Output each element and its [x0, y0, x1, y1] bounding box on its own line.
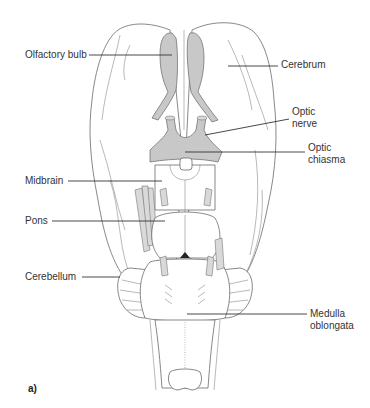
- panel-label: a): [28, 383, 37, 394]
- label-medulla-oblongata: Medulla oblongata: [310, 308, 354, 332]
- label-cerebellum: Cerebellum: [25, 271, 76, 283]
- label-olfactory-bulb: Olfactory bulb: [25, 49, 87, 61]
- spinal-root-left: [150, 320, 156, 390]
- label-optic-chiasma: Optic chiasma: [308, 142, 345, 166]
- pituitary-stalk: [180, 158, 192, 170]
- label-midbrain: Midbrain: [25, 175, 63, 187]
- right-optic-nerve-end: [197, 116, 207, 120]
- spinal-cord-section: [168, 369, 201, 390]
- medulla-oblongata: [140, 259, 229, 321]
- spinal-root-right: [214, 320, 220, 390]
- label-pons: Pons: [25, 215, 48, 227]
- left-optic-nerve-end: [165, 116, 175, 120]
- pons: [152, 212, 220, 258]
- label-cerebrum: Cerebrum: [281, 59, 325, 71]
- label-optic-nerve: Optic nerve: [292, 106, 317, 130]
